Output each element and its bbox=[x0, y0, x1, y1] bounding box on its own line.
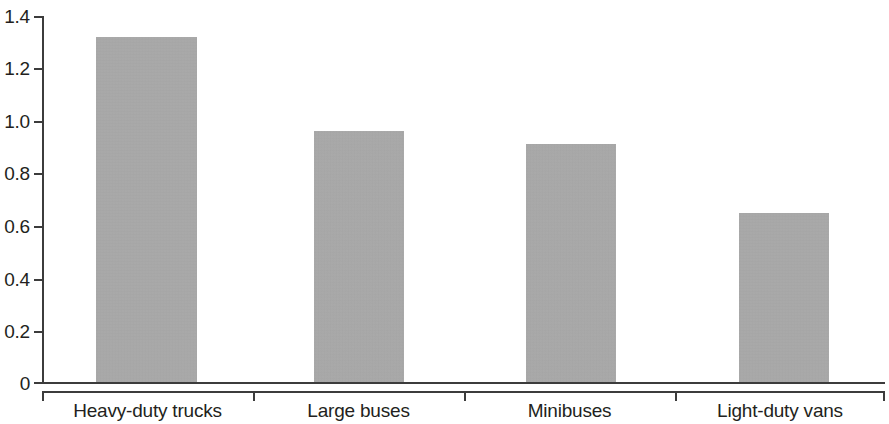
y-tick-label-0-6: 0.6 bbox=[0, 217, 30, 236]
y-tick-label-0-wrap: 0 bbox=[0, 374, 30, 393]
bar-heavy-duty-trucks bbox=[96, 37, 197, 383]
y-tick-label-1-2: 1.2 bbox=[0, 59, 30, 78]
y-tick-label-0-4: 0.4 bbox=[0, 270, 30, 289]
chart-baseline bbox=[42, 382, 885, 384]
bar-minibuses bbox=[526, 144, 616, 383]
category-label-light-duty-vans: Light-duty vans bbox=[675, 399, 885, 423]
y-tick-label-0-2-wrap: 0.2 bbox=[0, 322, 30, 341]
category-label-heavy-duty-trucks: Heavy-duty trucks bbox=[42, 399, 253, 423]
y-tick-label-0-4-wrap: 0.4 bbox=[0, 270, 30, 289]
y-tick-label-0-2: 0.2 bbox=[0, 322, 30, 341]
bar-chart: 1.4 1.2 1.0 0.8 0.6 0.4 0.2 0 bbox=[0, 0, 889, 424]
category-label-minibuses: Minibuses bbox=[464, 399, 675, 423]
y-tick-label-1-0-wrap: 1.0 bbox=[0, 112, 30, 131]
y-tick-label-0-8: 0.8 bbox=[0, 164, 30, 183]
y-tick-label-1-2-wrap: 1.2 bbox=[0, 59, 30, 78]
y-tick-label-0-6-wrap: 0.6 bbox=[0, 217, 30, 236]
category-label-large-buses: Large buses bbox=[253, 399, 464, 423]
y-tick-label-1-4-wrap: 1.4 bbox=[0, 7, 30, 26]
y-tick-label-0: 0 bbox=[0, 374, 30, 393]
bar-large-buses bbox=[314, 131, 404, 383]
y-tick-label-0-8-wrap: 0.8 bbox=[0, 164, 30, 183]
y-tick-label-1-4: 1.4 bbox=[0, 7, 30, 26]
y-tick-label-1-0: 1.0 bbox=[0, 112, 30, 131]
bar-light-duty-vans bbox=[739, 213, 829, 383]
plot-area bbox=[42, 16, 885, 383]
